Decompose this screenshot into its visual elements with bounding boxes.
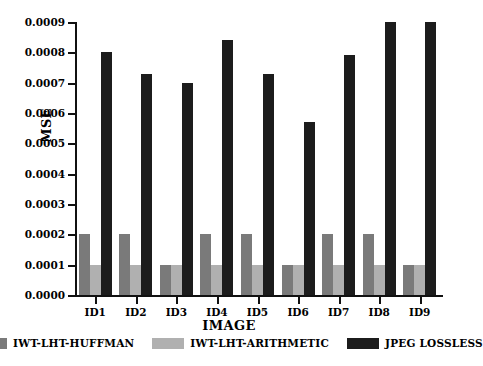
y-axis-tick [68,143,75,145]
y-axis-tick [68,83,75,85]
y-axis-tick [68,295,75,297]
bar-id1-series3 [101,52,112,295]
x-axis-tick-label-id5: ID5 [247,306,268,318]
x-axis-tick-label-id7: ID7 [328,306,349,318]
x-axis-tick-label-id6: ID6 [287,306,308,318]
y-axis-tick [68,265,75,267]
bar-id2-series3 [141,74,152,295]
bar-id1-series2 [90,265,101,295]
plot-area: 0.00000.00010.00020.00030.00040.00050.00… [75,22,440,297]
y-axis-tick [68,174,75,176]
bar-id2-series2 [130,265,141,295]
bar-id9-series2 [414,265,425,295]
bar-id9-series3 [425,22,436,295]
legend-item-2: IWT-LHT-ARITHMETIC [152,337,329,349]
bar-id4-series3 [222,40,233,295]
x-axis-tick [379,297,381,304]
bar-id4-series1 [200,234,211,295]
bar-id3-series3 [182,83,193,295]
legend-item-1: IWT-LHT-HUFFMAN [0,337,134,349]
y-axis-tick-label: 0.0003 [25,198,65,210]
y-axis-tick [68,22,75,24]
x-axis-tick-label-id1: ID1 [85,306,106,318]
bar-id5-series3 [263,74,274,295]
x-axis-tick [136,297,138,304]
x-axis-tick-label-id3: ID3 [166,306,187,318]
x-axis-tick [95,297,97,304]
legend-label: IWT-LHT-HUFFMAN [13,337,134,349]
bar-id2-series1 [119,234,130,295]
bar-id9-series1 [403,265,414,295]
x-axis-tick [258,297,260,304]
bar-id3-series1 [160,265,171,295]
legend-swatch-icon [152,338,184,349]
bar-id8-series1 [363,234,374,295]
x-axis-tick [298,297,300,304]
x-axis-tick-label-id2: ID2 [125,306,146,318]
legend-label: JPEG LOSSLESS [385,337,483,349]
x-axis-tick-label-id9: ID9 [409,306,430,318]
y-axis-tick-label: 0.0002 [25,228,65,240]
x-axis-tick [176,297,178,304]
bar-id7-series2 [333,265,344,295]
y-axis-line [75,22,77,297]
y-axis-tick [68,113,75,115]
bar-id8-series3 [385,22,396,295]
legend-swatch-icon [0,338,7,349]
x-axis-tick-label-id4: ID4 [206,306,227,318]
x-axis-tick [420,297,422,304]
y-axis-tick-label: 0.0006 [25,107,65,119]
bar-id3-series2 [171,265,182,295]
bar-id8-series2 [374,265,385,295]
y-axis-tick [68,234,75,236]
bar-id7-series3 [344,55,355,295]
y-axis-tick [68,204,75,206]
y-axis-tick-label: 0.0001 [25,259,65,271]
legend-swatch-icon [347,338,379,349]
bar-id5-series2 [252,265,263,295]
bar-id6-series2 [293,265,304,295]
x-axis-label: IMAGE [0,318,458,333]
legend-label: IWT-LHT-ARITHMETIC [190,337,329,349]
bar-id4-series2 [211,265,222,295]
bar-id1-series1 [79,234,90,295]
y-axis-tick-label: 0.0008 [25,46,65,58]
bar-id7-series1 [322,234,333,295]
x-axis-tick-label-id8: ID8 [368,306,389,318]
chart-legend: IWT-LHT-HUFFMANIWT-LHT-ARITHMETICJPEG LO… [0,337,458,349]
x-axis-tick [217,297,219,304]
bar-id6-series3 [304,122,315,295]
y-axis-tick-label: 0.0009 [25,16,65,28]
y-axis-tick-label: 0.0007 [25,77,65,89]
y-axis-tick-label: 0.0004 [25,168,65,180]
x-axis-tick [339,297,341,304]
bar-id6-series1 [282,265,293,295]
legend-item-3: JPEG LOSSLESS [347,337,483,349]
y-axis-tick-label: 0.0005 [25,137,65,149]
bar-id5-series1 [241,234,252,295]
y-axis-tick-label: 0.0000 [25,289,65,301]
y-axis-tick [68,52,75,54]
